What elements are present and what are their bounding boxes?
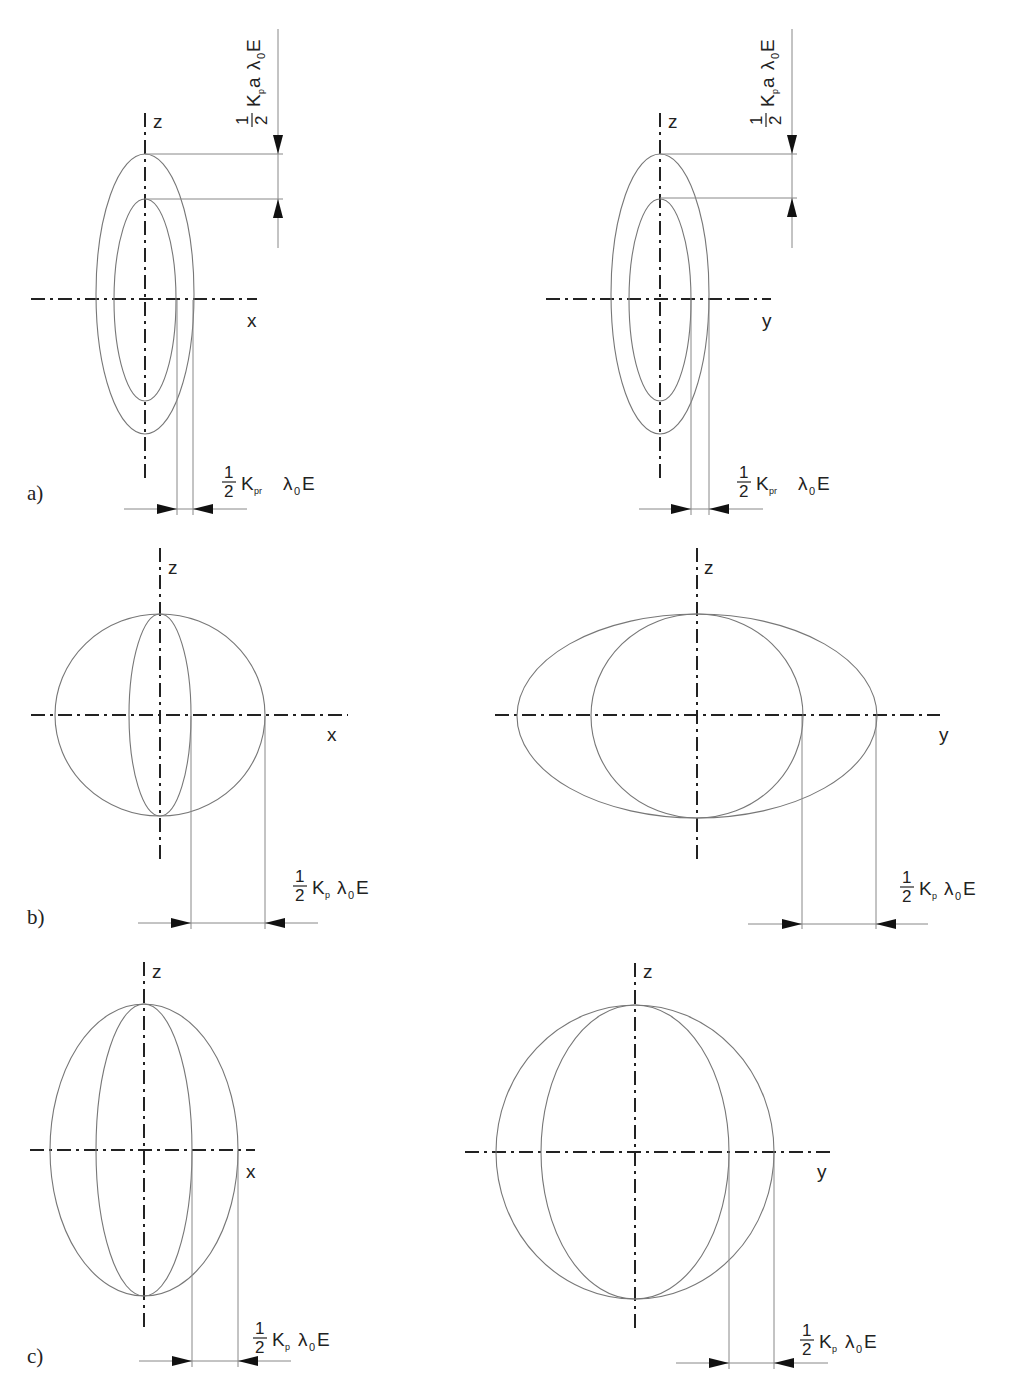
panel-label-c: c) <box>27 1344 43 1368</box>
x-axis-label: x <box>246 1161 256 1182</box>
arrow-left-icon <box>876 919 896 929</box>
svg-text:K: K <box>272 1329 285 1350</box>
svg-text:0: 0 <box>348 889 354 901</box>
svg-text:0: 0 <box>809 485 815 497</box>
svg-text:1: 1 <box>802 1321 811 1340</box>
panel-a: z x 1 2 K p a λ 0 E <box>27 29 830 515</box>
horizontal-dimension-label: 1 2 K p λ 0 E <box>900 868 976 906</box>
panel-c: z x 1 2 K p λ 0 E c) <box>27 961 877 1369</box>
arrow-up-icon <box>787 198 797 217</box>
y-axis-label: y <box>762 310 772 331</box>
svg-text:pr: pr <box>254 486 262 496</box>
svg-text:K: K <box>757 94 778 107</box>
svg-text:2: 2 <box>739 482 748 501</box>
svg-text:0: 0 <box>294 485 300 497</box>
svg-text:2: 2 <box>902 887 911 906</box>
z-axis-label: z <box>643 961 653 982</box>
vertical-dimension: 1 2 K p a λ 0 E <box>660 29 797 248</box>
svg-text:E: E <box>243 39 264 52</box>
horizontal-dimension-label: 1 2 K pr λ 0 E <box>222 463 315 501</box>
svg-text:1: 1 <box>255 1319 264 1338</box>
svg-text:2: 2 <box>766 116 785 125</box>
svg-text:p: p <box>285 1342 290 1352</box>
vertical-dimension-label: 1 2 K p a λ 0 E <box>747 39 785 127</box>
svg-text:0: 0 <box>955 890 961 902</box>
svg-text:K: K <box>756 473 769 494</box>
horizontal-dimension: 1 2 K p λ 0 E <box>138 716 369 929</box>
svg-text:pr: pr <box>769 486 777 496</box>
svg-text:1: 1 <box>224 463 233 482</box>
y-axis-label: y <box>939 724 949 745</box>
arrow-left-icon <box>709 504 729 514</box>
arrow-right-icon <box>671 504 691 514</box>
svg-text:a: a <box>757 77 778 88</box>
svg-text:0: 0 <box>769 53 781 59</box>
svg-text:K: K <box>243 94 264 107</box>
svg-text:p: p <box>832 1344 837 1354</box>
svg-text:1: 1 <box>233 116 252 125</box>
svg-text:E: E <box>317 1329 330 1350</box>
svg-text:p: p <box>325 890 330 900</box>
svg-text:0: 0 <box>309 1341 315 1353</box>
horizontal-dimension: 1 2 K p λ 0 E <box>139 1151 330 1367</box>
svg-text:2: 2 <box>252 116 271 125</box>
x-axis-label: x <box>247 310 257 331</box>
svg-text:E: E <box>757 39 778 52</box>
svg-text:E: E <box>864 1331 877 1352</box>
svg-text:E: E <box>963 878 976 899</box>
svg-text:λ: λ <box>283 473 293 494</box>
panel-label-b: b) <box>27 905 45 929</box>
svg-text:λ: λ <box>798 473 808 494</box>
panel-b: z x 1 2 K p λ 0 E b) <box>27 548 976 929</box>
svg-text:λ: λ <box>298 1329 308 1350</box>
panel-b-right-view: z y 1 2 K p λ 0 E <box>495 548 976 929</box>
arrow-right-icon <box>157 504 177 514</box>
svg-text:0: 0 <box>856 1343 862 1355</box>
svg-text:p: p <box>256 89 266 94</box>
svg-text:K: K <box>919 878 932 899</box>
arrow-right-icon <box>782 919 802 929</box>
vertical-dimension-label: 1 2 K p a λ 0 E <box>233 39 271 127</box>
z-axis-label: z <box>153 111 163 132</box>
arrow-down-icon <box>787 135 797 154</box>
svg-text:E: E <box>356 877 369 898</box>
arrow-right-icon <box>172 1356 192 1366</box>
arrow-left-icon <box>238 1356 258 1366</box>
svg-text:λ: λ <box>845 1331 855 1352</box>
svg-text:1: 1 <box>295 867 304 886</box>
svg-text:λ: λ <box>944 878 954 899</box>
svg-text:λ: λ <box>243 60 264 70</box>
vertical-dimension: 1 2 K p a λ 0 E <box>145 29 283 248</box>
z-axis-label: z <box>704 557 714 578</box>
panel-label-a: a) <box>27 481 43 505</box>
z-axis-label: z <box>152 961 162 982</box>
svg-text:p: p <box>932 891 937 901</box>
svg-text:K: K <box>241 473 254 494</box>
horizontal-dimension-label: 1 2 K p λ 0 E <box>800 1321 877 1359</box>
svg-text:2: 2 <box>802 1340 811 1359</box>
svg-text:E: E <box>302 473 315 494</box>
arrow-left-icon <box>265 918 285 928</box>
z-axis-label: z <box>168 557 178 578</box>
horizontal-dimension: 1 2 K pr λ 0 E <box>639 300 830 515</box>
svg-text:a: a <box>243 77 264 88</box>
svg-text:2: 2 <box>255 1338 264 1357</box>
arrow-up-icon <box>273 199 283 218</box>
y-axis-label: y <box>817 1161 827 1182</box>
x-axis-label: x <box>327 724 337 745</box>
arrow-right-icon <box>709 1358 729 1368</box>
svg-text:2: 2 <box>295 886 304 905</box>
panel-c-left-view: z x 1 2 K p λ 0 E <box>30 961 330 1367</box>
arrow-left-icon <box>774 1358 794 1368</box>
horizontal-dimension: 1 2 K pr λ 0 E <box>124 300 315 515</box>
arrow-right-icon <box>171 918 191 928</box>
arrow-down-icon <box>273 135 283 154</box>
svg-text:K: K <box>819 1331 832 1352</box>
panel-a-left-view: z x 1 2 K p a λ 0 E <box>31 29 315 515</box>
index-ellipsoid-figure: z x 1 2 K p a λ 0 E <box>0 0 1016 1390</box>
horizontal-dimension-label: 1 2 K pr λ 0 E <box>737 463 830 501</box>
panel-a-right-view: z y 1 2 K p a λ 0 E <box>546 29 830 515</box>
horizontal-dimension: 1 2 K p λ 0 E <box>676 1153 877 1369</box>
svg-text:1: 1 <box>902 868 911 887</box>
z-axis-label: z <box>668 111 678 132</box>
